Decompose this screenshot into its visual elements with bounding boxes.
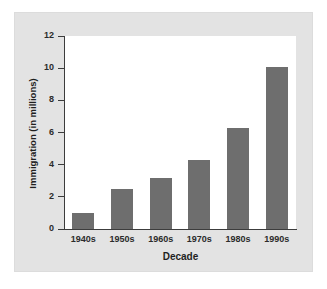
y-axis-tick — [58, 68, 64, 69]
x-axis-title: Decade — [64, 251, 297, 262]
y-axis-title: Immigration (in millions) — [27, 54, 38, 214]
y-axis-tick — [58, 229, 64, 230]
bar — [266, 67, 288, 229]
y-axis-tick — [58, 164, 64, 165]
y-axis-tick-label: 0 — [14, 224, 54, 233]
y-axis-tick-label: 12 — [14, 31, 54, 40]
bar — [188, 160, 210, 229]
x-axis-tick-label: 1950s — [100, 234, 144, 244]
x-axis-tick-label: 1990s — [255, 234, 299, 244]
bar — [150, 178, 172, 229]
y-axis-tick — [58, 132, 64, 133]
y-axis-tick — [58, 36, 64, 37]
x-axis-tick-label: 1970s — [177, 234, 221, 244]
plot-area — [64, 36, 296, 229]
y-axis-tick — [58, 100, 64, 101]
chart-figure: 024681012 1940s1950s1960s1970s1980s1990s… — [0, 0, 327, 289]
bar — [111, 189, 133, 229]
y-axis-line — [64, 36, 65, 230]
x-axis-tick-label: 1940s — [61, 234, 105, 244]
bar — [72, 213, 94, 229]
x-axis-tick-label: 1980s — [216, 234, 260, 244]
bar — [227, 128, 249, 229]
x-axis-line — [64, 229, 297, 230]
x-axis-tick-label: 1960s — [139, 234, 183, 244]
y-axis-tick — [58, 196, 64, 197]
